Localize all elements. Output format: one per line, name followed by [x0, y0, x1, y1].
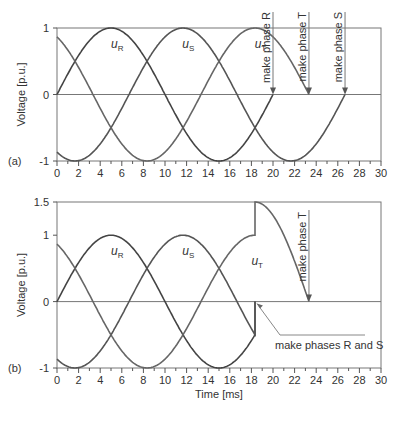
y-axis-label: Voltage [p.u.] [15, 253, 27, 317]
x-tick-label: 24 [310, 167, 322, 179]
x-tick-label: 14 [202, 374, 214, 386]
series-label-uT: uT [251, 254, 263, 270]
x-tick-label: 30 [375, 374, 387, 386]
y-axis-label: Voltage [p.u.] [15, 62, 27, 126]
series-label-uR: uR [111, 244, 124, 260]
x-tick-label: 18 [245, 374, 257, 386]
x-axis-label: Time [ms] [195, 388, 243, 400]
annotation-label: make phase R [260, 12, 272, 83]
x-tick-label: 8 [140, 167, 146, 179]
x-tick-label: 6 [119, 374, 125, 386]
series-label-uS: uS [182, 37, 194, 53]
panel-b: 024681012141618202224262830-1011.5Voltag… [8, 196, 387, 386]
x-tick-label: 30 [375, 167, 387, 179]
x-tick-label: 26 [332, 167, 344, 179]
x-tick-label: 12 [180, 167, 192, 179]
x-tick-label: 12 [180, 374, 192, 386]
annotation-label: make phase T [296, 12, 308, 82]
panel-a: 024681012141618202224262830-101Voltage [… [8, 12, 387, 179]
arrowhead-icon [342, 88, 348, 95]
x-tick-label: 28 [353, 374, 365, 386]
x-tick-label: 0 [54, 374, 60, 386]
annotation-leader [257, 304, 365, 335]
x-tick-label: 26 [332, 374, 344, 386]
x-tick-label: 20 [267, 374, 279, 386]
x-tick-label: 10 [159, 374, 171, 386]
arrowhead-icon [270, 88, 276, 95]
x-tick-label: 22 [288, 167, 300, 179]
x-tick-label: 8 [140, 374, 146, 386]
y-tick-label: -1 [39, 362, 49, 374]
arrowhead-icon [257, 304, 263, 309]
x-tick-label: 22 [288, 374, 300, 386]
x-tick-label: 4 [97, 374, 103, 386]
series-label-uS: uS [182, 244, 194, 260]
annotation-label: make phase S [332, 12, 344, 82]
panel-label: (b) [8, 362, 21, 374]
x-tick-label: 18 [245, 167, 257, 179]
y-tick-label: 1 [43, 229, 49, 241]
x-tick-label: 16 [224, 374, 236, 386]
x-tick-label: 2 [76, 167, 82, 179]
x-tick-label: 24 [310, 374, 322, 386]
x-tick-label: 10 [159, 167, 171, 179]
y-tick-label: 0 [43, 89, 49, 101]
x-tick-label: 2 [76, 374, 82, 386]
series-uT [57, 202, 309, 368]
y-tick-label: 1.5 [34, 196, 49, 208]
x-tick-label: 6 [119, 167, 125, 179]
annotation-label: make phase T [296, 212, 308, 282]
figure: 024681012141618202224262830-101Voltage [… [0, 0, 404, 421]
x-tick-label: 28 [353, 167, 365, 179]
panel-label: (a) [8, 155, 21, 167]
y-tick-label: 1 [43, 22, 49, 34]
y-tick-label: 0 [43, 296, 49, 308]
x-tick-label: 0 [54, 167, 60, 179]
y-tick-label: -1 [39, 155, 49, 167]
x-tick-label: 20 [267, 167, 279, 179]
x-tick-label: 4 [97, 167, 103, 179]
arrowhead-icon [306, 295, 312, 302]
series-label-uR: uR [111, 37, 124, 53]
annotation-label: make phases R and S [275, 339, 383, 351]
x-tick-label: 16 [224, 167, 236, 179]
x-tick-label: 14 [202, 167, 214, 179]
